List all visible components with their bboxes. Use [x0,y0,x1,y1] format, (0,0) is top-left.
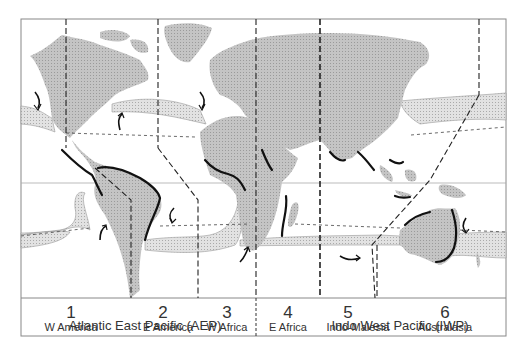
province-iwp: Indo West Pacific (IWP) [300,318,500,333]
world-map [0,0,526,355]
new-guinea [439,185,466,198]
continents [30,23,480,298]
greenland [164,23,212,62]
region-number-4: 4 [273,303,303,323]
province-aep: Atlantic East Pacific (AEP) [40,318,250,333]
australia [399,208,460,265]
